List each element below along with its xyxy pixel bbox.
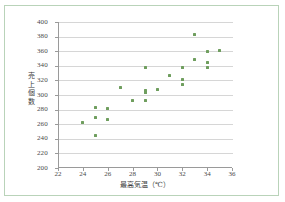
y-axis-title: 売上個数 — [27, 72, 36, 106]
x-tick-label: 26 — [98, 171, 118, 178]
y-tick-mark — [55, 95, 58, 96]
gridline-horizontal — [59, 139, 233, 140]
y-tick-mark — [55, 37, 58, 38]
gridline-horizontal — [59, 95, 233, 96]
y-tick-label: 200 — [37, 165, 48, 172]
y-tick-label: 240 — [37, 135, 48, 142]
y-tick-label: 340 — [37, 62, 48, 69]
data-point — [94, 116, 97, 119]
data-point — [119, 86, 122, 89]
gridline-horizontal — [59, 124, 233, 125]
y-tick-label: 220 — [37, 150, 48, 157]
y-tick-mark — [55, 110, 58, 111]
scatter-chart: 売上個数 200220240260280300320340360380400 2… — [0, 0, 285, 202]
x-tick-label: 22 — [48, 171, 68, 178]
y-tick-mark — [55, 51, 58, 52]
y-tick-label: 400 — [37, 19, 48, 26]
data-point — [94, 134, 97, 137]
data-point — [144, 91, 147, 94]
x-tick-label: 34 — [197, 171, 217, 178]
x-tick-label: 30 — [147, 171, 167, 178]
data-point — [218, 49, 221, 52]
y-tick-mark — [55, 139, 58, 140]
y-tick-label: 260 — [37, 121, 48, 128]
x-tick-label: 24 — [73, 171, 93, 178]
data-point — [144, 99, 147, 102]
data-point — [94, 106, 97, 109]
y-tick-label: 300 — [37, 92, 48, 99]
data-point — [156, 88, 159, 91]
data-point — [106, 118, 109, 121]
data-point — [81, 121, 84, 124]
data-point — [206, 50, 209, 53]
data-point — [206, 61, 209, 64]
data-point — [106, 107, 109, 110]
y-tick-label: 280 — [37, 106, 48, 113]
y-tick-mark — [55, 80, 58, 81]
y-tick-mark — [55, 153, 58, 154]
plot-area — [58, 22, 232, 168]
x-axis-title: 最高気温（℃） — [58, 181, 232, 189]
x-tick-label: 28 — [123, 171, 143, 178]
y-tick-mark — [55, 22, 58, 23]
data-point — [181, 78, 184, 81]
data-point — [168, 74, 171, 77]
y-tick-mark — [55, 66, 58, 67]
gridline-horizontal — [59, 37, 233, 38]
gridline-horizontal — [59, 110, 233, 111]
data-point — [193, 33, 196, 36]
gridline-horizontal — [59, 80, 233, 81]
data-point — [181, 83, 184, 86]
gridline-horizontal — [59, 153, 233, 154]
y-tick-label: 320 — [37, 77, 48, 84]
y-tick-mark — [55, 124, 58, 125]
y-tick-label: 360 — [37, 48, 48, 55]
gridline-horizontal — [59, 22, 233, 23]
data-point — [131, 99, 134, 102]
x-tick-label: 32 — [172, 171, 192, 178]
x-tick-label: 36 — [222, 171, 242, 178]
y-tick-label: 380 — [37, 33, 48, 40]
